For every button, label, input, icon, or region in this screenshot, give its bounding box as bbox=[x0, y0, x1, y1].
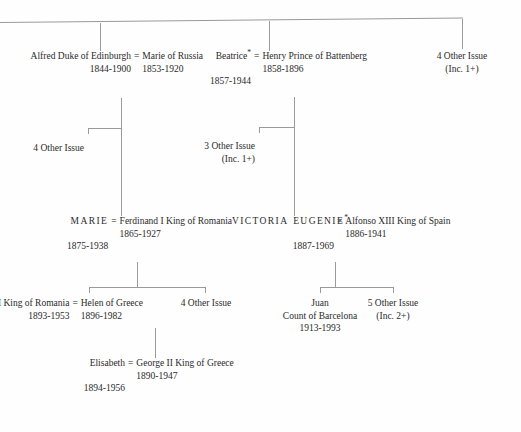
person-title: Prince of Battenberg bbox=[289, 51, 367, 61]
person-name: Marie bbox=[142, 51, 165, 61]
tick-carol-other-issue bbox=[205, 287, 206, 293]
person-title: King of Greece bbox=[175, 358, 234, 368]
tick-juan-other-issue bbox=[393, 287, 394, 293]
person-title: King of Spain bbox=[397, 216, 450, 226]
person-name: Carol II bbox=[0, 298, 1, 308]
group-carol-other-issue: 4 Other Issue bbox=[166, 297, 246, 310]
descent-line-marie bbox=[137, 262, 138, 288]
person-dates: 1913-1993 bbox=[262, 322, 378, 335]
couple-beatrice-henry: Beatrice* 1857-1944 = Henry Prince of Ba… bbox=[167, 50, 367, 88]
issue-label: 4 Other Issue bbox=[437, 51, 488, 61]
tick-carol bbox=[89, 287, 90, 293]
descent-line-beatrice bbox=[294, 97, 295, 216]
group-top-other-issue: 4 Other Issue (Inc. 1+) bbox=[402, 50, 521, 75]
person-name: Alfonso XIII bbox=[345, 216, 394, 226]
group-beatrice-other-issue: 3 Other Issue (Inc. 1+) bbox=[165, 140, 255, 165]
marriage-symbol: = bbox=[251, 50, 262, 63]
marriage-symbol: = bbox=[131, 50, 142, 63]
tick-juan bbox=[320, 287, 321, 293]
person-dates: 1893-1953 bbox=[0, 310, 69, 323]
person-henry: Henry Prince of Battenberg 1858-1896 bbox=[262, 50, 367, 75]
person-alfonso: Alfonso XIII King of Spain 1886-1941 bbox=[345, 215, 450, 240]
person-george: George II King of Greece 1890-1947 bbox=[136, 357, 233, 382]
person-elisabeth: Elisabeth 1894-1956 bbox=[30, 357, 125, 395]
person-helen: Helen of Greece 1896-1982 bbox=[81, 297, 143, 322]
person-dates: 1890-1947 bbox=[136, 370, 233, 383]
person-name: George II bbox=[136, 358, 173, 368]
marriage-symbol: = bbox=[334, 215, 345, 228]
person-dates: 1875-1938 bbox=[67, 240, 108, 253]
person-beatrice: Beatrice* 1857-1944 bbox=[167, 50, 251, 88]
person-title: King of Romania bbox=[166, 216, 232, 226]
marriage-symbol: = bbox=[125, 357, 136, 370]
drop-line-alfred bbox=[100, 23, 101, 51]
drop-line-beatrice bbox=[269, 21, 270, 51]
tick-beatrice-other-issue bbox=[259, 127, 260, 133]
issue-note: (Inc. 1+) bbox=[402, 63, 521, 76]
issue-label: 4 Other Issue bbox=[181, 298, 232, 308]
top-sibling-bar bbox=[0, 18, 463, 23]
issue-label: 5 Other Issue bbox=[368, 298, 419, 308]
issue-label: 4 Other Issue bbox=[33, 143, 84, 153]
issue-note: (Inc. 1+) bbox=[165, 153, 255, 166]
person-name: Alfred bbox=[31, 51, 56, 61]
descent-line-eugenie bbox=[335, 262, 336, 288]
branch-alfred-other-issue bbox=[88, 128, 122, 129]
spacer bbox=[67, 228, 108, 241]
sibling-bar-marie-children bbox=[89, 287, 206, 288]
person-dates: 1886-1941 bbox=[345, 228, 450, 241]
couple-carol-helen: Carol II King of Romania 1893-1953 = Hel… bbox=[0, 297, 143, 322]
person-name: Henry bbox=[262, 51, 286, 61]
couple-elisabeth-george: Elisabeth 1894-1956 = George II King of … bbox=[30, 357, 270, 395]
drop-line-top-other-issue bbox=[462, 19, 463, 49]
marriage-symbol: = bbox=[108, 215, 119, 228]
group-alfred-other-issue: 4 Other Issue bbox=[0, 142, 84, 155]
person-dates: 1894-1956 bbox=[30, 382, 125, 395]
person-title: of Greece bbox=[106, 298, 143, 308]
person-name: VICTORIA EUGENIE* bbox=[232, 216, 348, 226]
person-title: King of Romania bbox=[3, 298, 69, 308]
person-dates: 1857-1944 bbox=[167, 75, 251, 88]
person-ferdinand: Ferdinand I King of Romania 1865-1927 bbox=[120, 215, 232, 240]
branch-beatrice-other-issue bbox=[259, 127, 295, 128]
tick-alfred-other-issue bbox=[88, 128, 89, 134]
couple-marie-ferdinand: MARIE 1875-1938 = Ferdinand I King of Ro… bbox=[10, 215, 232, 253]
descent-line-alfred bbox=[121, 98, 122, 216]
spacer bbox=[232, 228, 334, 241]
person-name: MARIE bbox=[71, 216, 109, 226]
person-dates: 1887-1969 bbox=[232, 240, 334, 253]
person-dates: 1858-1896 bbox=[262, 63, 367, 76]
genealogy-chart: Alfred Duke of Edinburgh 1844-1900 = Mar… bbox=[0, 0, 521, 432]
descent-line-carol bbox=[155, 328, 156, 358]
person-dates: 1865-1927 bbox=[120, 228, 232, 241]
spacer bbox=[167, 63, 251, 76]
person-alfred: Alfred Duke of Edinburgh 1844-1900 bbox=[31, 50, 131, 75]
group-juan-other-issue: 5 Other Issue (Inc. 2+) bbox=[343, 297, 443, 322]
person-name: Ferdinand I bbox=[120, 216, 164, 226]
person-dates: 1896-1982 bbox=[81, 310, 143, 323]
person-victoria-eugenie: VICTORIA EUGENIE* 1887-1969 bbox=[232, 215, 334, 253]
sibling-bar-eugenie-children bbox=[320, 287, 394, 288]
person-name: Helen bbox=[81, 298, 104, 308]
person-name: Juan bbox=[311, 298, 328, 308]
issue-note: (Inc. 2+) bbox=[343, 310, 443, 323]
couple-victoria-eugenie-alfonso: VICTORIA EUGENIE* 1887-1969 = Alfonso XI… bbox=[232, 215, 432, 253]
spacer bbox=[30, 370, 125, 383]
person-title: Duke of Edinburgh bbox=[58, 51, 131, 61]
person-dates: 1844-1900 bbox=[31, 63, 131, 76]
person-carol: Carol II King of Romania 1893-1953 bbox=[0, 297, 69, 322]
person-name: Elisabeth bbox=[90, 358, 125, 368]
person-marie-of-romania: MARIE 1875-1938 bbox=[67, 215, 108, 253]
issue-label: 3 Other Issue bbox=[204, 141, 255, 151]
marriage-symbol: = bbox=[69, 297, 80, 310]
person-name: Beatrice* bbox=[216, 51, 251, 61]
